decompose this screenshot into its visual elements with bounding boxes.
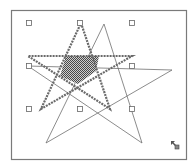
selection-handle[interactable] [130,21,135,26]
selection-handle[interactable] [27,107,32,112]
resize-cursor-icon [171,141,179,149]
thin-star-shape[interactable] [28,24,172,143]
selection-handle[interactable] [130,64,135,69]
selection-handle[interactable] [78,107,83,112]
document-frame [12,11,187,160]
selection-handle[interactable] [27,21,32,26]
selection-handle[interactable] [27,64,32,69]
drawing-canvas[interactable] [0,0,195,166]
selection-handle[interactable] [78,21,83,26]
selection-handle[interactable] [130,107,135,112]
